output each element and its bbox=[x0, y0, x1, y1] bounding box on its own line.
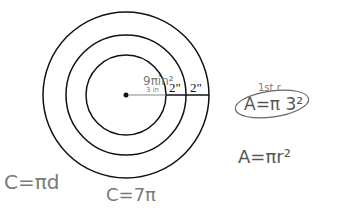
area-first-note: A=π 3² bbox=[244, 94, 303, 114]
circumference-formula-note: C=πd bbox=[4, 170, 59, 194]
center-point bbox=[124, 93, 129, 98]
circumference-value-note: C=7π bbox=[106, 184, 156, 205]
inner-radius-annotation: 3 in bbox=[146, 86, 159, 94]
first-radius-note: 1st r bbox=[258, 82, 281, 93]
segment-label-2: 2" bbox=[190, 80, 202, 96]
area-formula-note: A=πr² bbox=[238, 146, 291, 167]
